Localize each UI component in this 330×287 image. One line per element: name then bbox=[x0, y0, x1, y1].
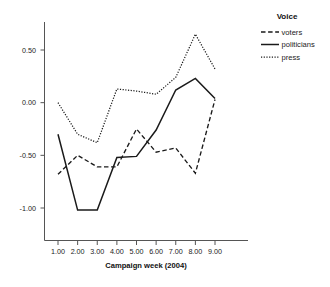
legend-label-press: press bbox=[282, 53, 301, 62]
legend-label-politicians: politicians bbox=[282, 40, 316, 49]
x-tick-label: 4.00 bbox=[110, 247, 124, 256]
legend-items: voterspoliticianspress bbox=[261, 28, 315, 62]
x-tick-label: 3.00 bbox=[90, 247, 104, 256]
x-tick-label: 7.00 bbox=[169, 247, 183, 256]
y-tick-label: -1.00 bbox=[20, 204, 36, 213]
series-group bbox=[58, 34, 215, 210]
chart-container: 0.500.00-0.50-1.00 1.002.003.004.005.006… bbox=[0, 0, 330, 287]
x-tick-label: 2.00 bbox=[71, 247, 85, 256]
line-chart: 0.500.00-0.50-1.00 1.002.003.004.005.006… bbox=[0, 0, 330, 287]
y-axis-ticks: 0.500.00-0.50-1.00 bbox=[20, 46, 45, 213]
x-axis-ticks: 1.002.003.004.005.006.007.008.009.00 bbox=[51, 241, 222, 257]
x-tick-label: 5.00 bbox=[130, 247, 144, 256]
x-tick-label: 6.00 bbox=[149, 247, 163, 256]
series-line-voters bbox=[58, 100, 215, 175]
series-line-press bbox=[58, 34, 215, 142]
y-tick-label: 0.00 bbox=[22, 98, 36, 107]
legend-title: Voice bbox=[277, 12, 298, 21]
x-tick-label: 9.00 bbox=[208, 247, 222, 256]
x-tick-label: 8.00 bbox=[188, 247, 202, 256]
legend-label-voters: voters bbox=[282, 28, 303, 37]
x-axis-title: Campaign week (2004) bbox=[105, 261, 187, 270]
chart-legend: Voice voterspoliticianspress bbox=[261, 12, 315, 62]
y-tick-label: -0.50 bbox=[20, 151, 36, 160]
y-tick-label: 0.50 bbox=[22, 46, 36, 55]
series-line-politicians bbox=[58, 78, 215, 210]
x-tick-label: 1.00 bbox=[51, 247, 65, 256]
